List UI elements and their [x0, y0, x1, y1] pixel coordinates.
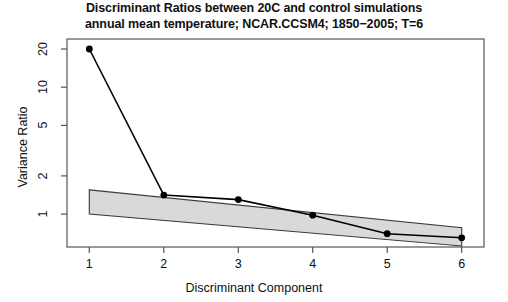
data-point-4[interactable] — [309, 212, 316, 219]
data-point-1[interactable] — [86, 46, 93, 53]
y-tick-marks — [61, 49, 67, 214]
data-point-2[interactable] — [160, 192, 167, 199]
data-point-6[interactable] — [458, 234, 465, 241]
x-tick-marks — [89, 247, 461, 253]
plot-area — [0, 0, 508, 302]
data-point-5[interactable] — [384, 230, 391, 237]
chart-figure: Discriminant Ratios between 20C and cont… — [0, 0, 508, 302]
confidence-band — [89, 190, 461, 246]
data-point-3[interactable] — [235, 196, 242, 203]
